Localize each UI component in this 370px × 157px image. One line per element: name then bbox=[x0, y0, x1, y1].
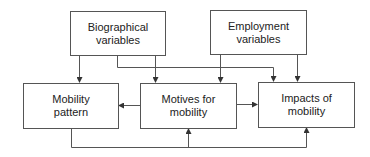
node-label-line1: Employment bbox=[228, 20, 289, 33]
node-label-line2: mobility bbox=[162, 106, 216, 119]
node-label-line2: variables bbox=[228, 33, 289, 46]
node-label-line1: Biographical bbox=[88, 21, 149, 34]
node-label-line2: mobility bbox=[281, 105, 332, 118]
node-label-line2: pattern bbox=[52, 106, 89, 119]
node-label-line1: Motives for bbox=[162, 93, 216, 106]
node-label-line1: Mobility bbox=[52, 93, 89, 106]
node-label-line2: variables bbox=[88, 34, 149, 47]
node-motives-for-mobility: Motives for mobility bbox=[140, 83, 237, 129]
edge-bio-to-impacts bbox=[118, 55, 274, 81]
node-biographical-variables: Biographical variables bbox=[70, 11, 166, 56]
node-employment-variables: Employment variables bbox=[210, 10, 307, 55]
node-label-line1: Impacts of bbox=[281, 92, 332, 105]
node-impacts-of-mobility: Impacts of mobility bbox=[258, 82, 355, 128]
node-mobility-pattern: Mobility pattern bbox=[23, 83, 119, 129]
connector-lines bbox=[0, 0, 370, 157]
